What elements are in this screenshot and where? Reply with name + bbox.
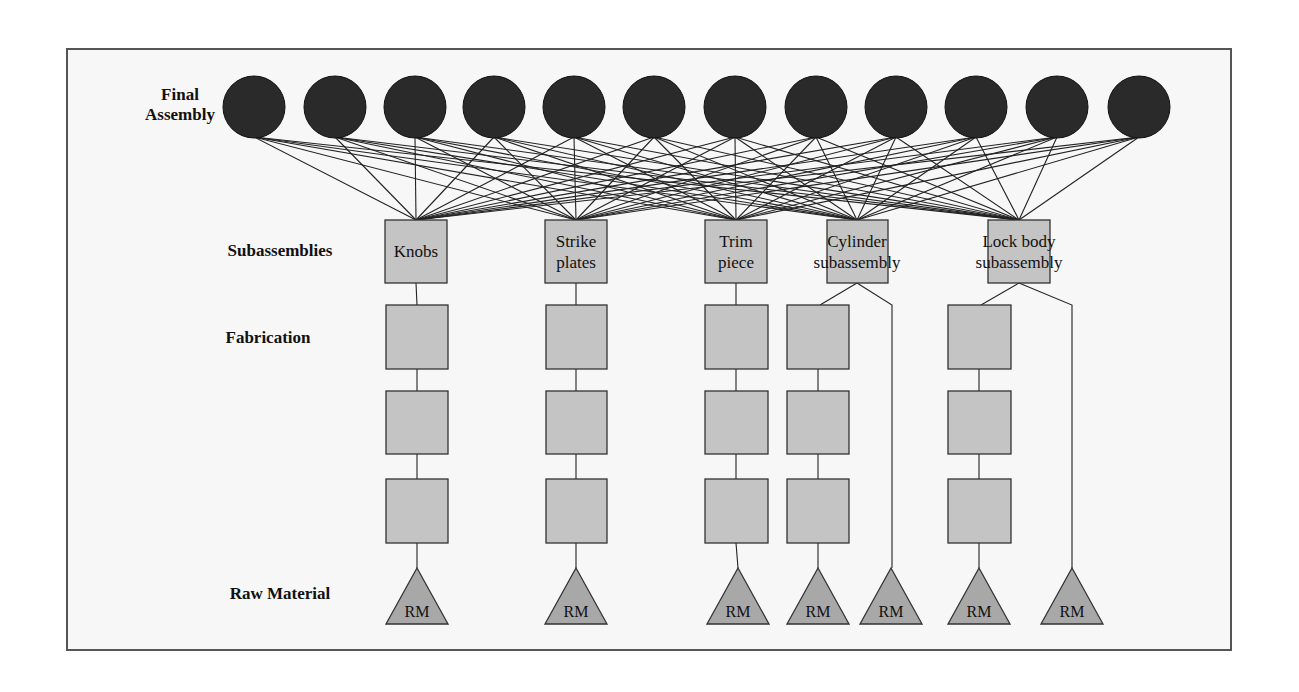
final-assembly-node (304, 76, 366, 138)
fabrication-box (546, 391, 607, 454)
fabrication-box (386, 391, 448, 454)
final-assembly-node (945, 76, 1007, 138)
raw-material-label: RM (967, 603, 992, 620)
final-assembly-node (463, 76, 525, 138)
subassembly-cylinder-label: Cylinder subassembly (797, 231, 917, 273)
level-label-raw-material: Raw Material (200, 584, 360, 604)
fabrication-box (386, 305, 448, 369)
subassembly-trim-piece-label: Trim piece (705, 231, 767, 273)
subassembly-strike-plates-label: Strike plates (545, 231, 607, 273)
final-assembly-node (543, 76, 605, 138)
raw-material-label: RM (564, 603, 589, 620)
subassembly-knobs-label: Knobs (385, 241, 447, 262)
fabrication-box (705, 479, 768, 543)
fabrication-box (787, 391, 849, 454)
level-label-subassemblies: Subassemblies (200, 241, 360, 261)
final-assembly-node (785, 76, 847, 138)
final-assembly-node (704, 76, 766, 138)
subassembly-lock-body-label: Lock body subassembly (959, 231, 1079, 273)
fabrication-box (386, 479, 448, 543)
level-label-fabrication: Fabrication (198, 328, 338, 348)
final-assembly-node (1026, 76, 1088, 138)
raw-material-label: RM (879, 603, 904, 620)
fabrication-box (546, 479, 607, 543)
final-assembly-node (1108, 76, 1170, 138)
raw-material-label: RM (1060, 603, 1085, 620)
final-assembly-node (623, 76, 685, 138)
raw-material-label: RM (806, 603, 831, 620)
final-assembly-node (384, 76, 446, 138)
level-label-final-assembly: Final Assembly (120, 85, 240, 125)
fabrication-box (705, 305, 768, 369)
fabrication-box (948, 305, 1011, 369)
fabrication-box (787, 479, 849, 543)
fabrication-box (948, 391, 1011, 454)
fabrication-box (546, 305, 607, 369)
fabrication-box (705, 391, 768, 454)
raw-material-label: RM (726, 603, 751, 620)
raw-material-label: RM (405, 603, 430, 620)
fabrication-box (787, 305, 849, 369)
fabrication-box (948, 479, 1011, 543)
final-assembly-node (865, 76, 927, 138)
